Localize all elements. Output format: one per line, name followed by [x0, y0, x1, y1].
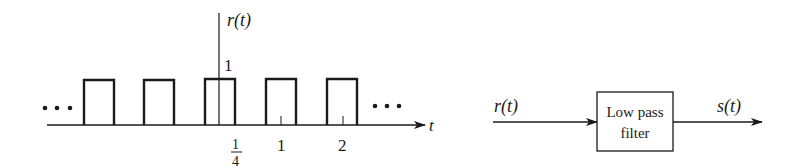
block-label-line1: Low pass: [606, 104, 663, 120]
pulses: [84, 79, 357, 125]
pulse: [327, 79, 357, 125]
pulse: [84, 80, 114, 125]
input-label: r(t): [494, 96, 518, 117]
tick-label-two: 2: [338, 136, 347, 155]
pulse-train-plot: r(t) t 1 1 4 1 2: [43, 10, 435, 168]
ellipsis-left: [43, 106, 73, 111]
ylabel: r(t): [227, 10, 251, 31]
lowpass-filter-block: [597, 92, 673, 151]
tick-label-quarter-denominator: 4: [232, 154, 239, 168]
amplitude-label: 1: [224, 56, 233, 75]
diagram-canvas: r(t) t 1 1 4 1 2 r(t) s(t) Low pass filt…: [0, 0, 795, 168]
block-label-line2: filter: [620, 125, 649, 141]
lowpass-block-diagram: r(t) s(t) Low pass filter: [493, 92, 762, 151]
ellipsis-right: [373, 104, 402, 109]
figure: r(t) t 1 1 4 1 2 r(t) s(t) Low pass filt…: [0, 0, 795, 168]
xlabel: t: [429, 116, 435, 135]
pulse: [144, 80, 174, 125]
pulse: [205, 79, 235, 125]
output-label: s(t): [717, 96, 741, 117]
tick-label-one: 1: [277, 136, 286, 155]
tick-label-quarter-numerator: 1: [232, 137, 239, 152]
